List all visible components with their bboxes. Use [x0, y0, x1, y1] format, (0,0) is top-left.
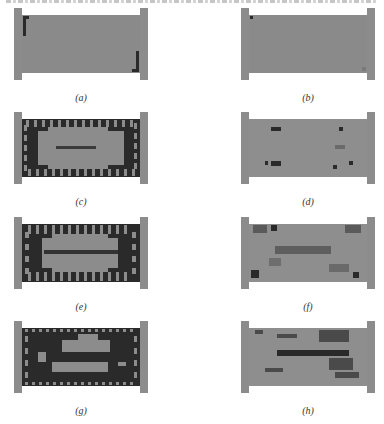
dot: [134, 336, 137, 342]
panel-label-a: (a): [14, 92, 148, 103]
dot: [60, 329, 63, 332]
stripe: [36, 169, 39, 176]
light-core: [52, 234, 108, 240]
stripe: [44, 169, 47, 176]
dark-band: [329, 358, 353, 370]
stripe: [134, 133, 137, 139]
left-flange: [14, 8, 22, 80]
dark-spot: [250, 16, 253, 19]
stripe: [68, 169, 71, 176]
panel-label-d: (d): [241, 196, 375, 207]
stripe: [100, 225, 103, 234]
right-flange: [140, 217, 148, 289]
stripe: [28, 169, 31, 176]
dot: [32, 329, 35, 332]
dot: [88, 382, 91, 385]
stripe: [92, 272, 95, 281]
dark-corner: [132, 69, 139, 72]
density-map: [249, 15, 367, 73]
stripe: [84, 169, 87, 176]
center-band: [277, 350, 349, 356]
right-flange: [140, 112, 148, 184]
stripe: [124, 169, 127, 176]
left-flange: [241, 217, 249, 289]
stripe: [24, 135, 27, 141]
stripe: [25, 232, 29, 238]
stripe: [24, 125, 27, 131]
stripe: [100, 169, 103, 176]
light-band: [52, 362, 108, 372]
right-flange: [367, 321, 375, 393]
dot: [95, 382, 98, 385]
dot: [53, 382, 56, 385]
right-flange: [140, 8, 148, 80]
dot: [25, 336, 28, 342]
dot: [46, 329, 49, 332]
stripe: [25, 244, 29, 250]
panel-label-b: (b): [241, 92, 375, 103]
dot: [88, 329, 91, 332]
dot: [74, 382, 77, 385]
stripe: [24, 165, 27, 171]
density-map: [22, 119, 140, 177]
panel-g: [14, 321, 148, 393]
dark-band: [265, 368, 283, 372]
faint-band: [335, 145, 345, 149]
stripe: [42, 120, 45, 127]
dot: [109, 382, 112, 385]
dark-band: [277, 334, 297, 338]
dot: [130, 382, 133, 385]
dot: [134, 348, 137, 354]
light-core: [48, 127, 108, 133]
dot: [39, 382, 42, 385]
stripe: [90, 120, 93, 127]
dark-corner: [23, 16, 29, 19]
dark-band: [255, 330, 263, 334]
stripe: [68, 225, 71, 234]
stripe: [25, 268, 29, 274]
dot: [116, 382, 119, 385]
stripe: [25, 256, 29, 262]
left-flange: [14, 321, 22, 393]
panel-label-c: (c): [14, 196, 148, 207]
dot: [25, 348, 28, 354]
stripe: [116, 169, 119, 176]
right-flange: [367, 217, 375, 289]
left-flange: [241, 112, 249, 184]
dark-band: [335, 372, 359, 378]
stripe: [130, 120, 133, 127]
center-bar: [44, 250, 118, 254]
stripe: [66, 120, 69, 127]
dot: [60, 382, 63, 385]
panel-c: [14, 112, 148, 184]
panel-label-f: (f): [241, 301, 375, 312]
stripe: [68, 272, 71, 281]
stripe: [50, 120, 53, 127]
density-map: [22, 328, 140, 386]
dot: [109, 329, 112, 332]
stripe: [108, 225, 111, 234]
dot: [123, 382, 126, 385]
left-flange: [14, 112, 22, 184]
panel-label-g: (g): [14, 405, 148, 416]
stripe: [76, 225, 79, 234]
stripe: [84, 225, 87, 234]
dark-spot: [353, 272, 359, 278]
left-flange: [241, 321, 249, 393]
dot: [95, 329, 98, 332]
cutoff-caption-text: [6, 0, 378, 3]
dark-spot: [271, 161, 281, 166]
center-bar: [56, 146, 96, 149]
stripe: [44, 225, 47, 234]
left-flange: [241, 8, 249, 80]
stripe: [58, 120, 61, 127]
dot: [134, 360, 137, 366]
dark-spot: [271, 127, 281, 131]
stripe: [76, 169, 79, 176]
left-flange: [14, 217, 22, 289]
density-map: [249, 119, 367, 177]
faint-band: [329, 264, 349, 272]
dark-spot: [271, 225, 277, 231]
dark-spot: [349, 161, 353, 165]
density-map: [249, 328, 367, 386]
